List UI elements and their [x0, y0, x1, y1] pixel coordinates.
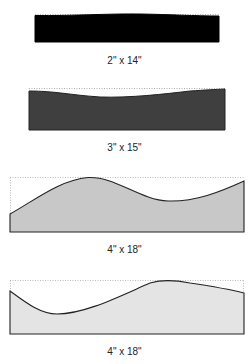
panel-2-shape	[29, 89, 225, 131]
panel-1-shape	[35, 14, 219, 42]
panel-4-shape	[10, 281, 244, 335]
panel-1-label: 2" x 14"	[0, 55, 249, 66]
panel-4-label: 4" x 18"	[0, 346, 249, 357]
panel-3-shape	[10, 177, 244, 232]
panel-2-label: 3" x 15"	[0, 142, 249, 153]
panel-3-label: 4" x 18"	[0, 244, 249, 255]
